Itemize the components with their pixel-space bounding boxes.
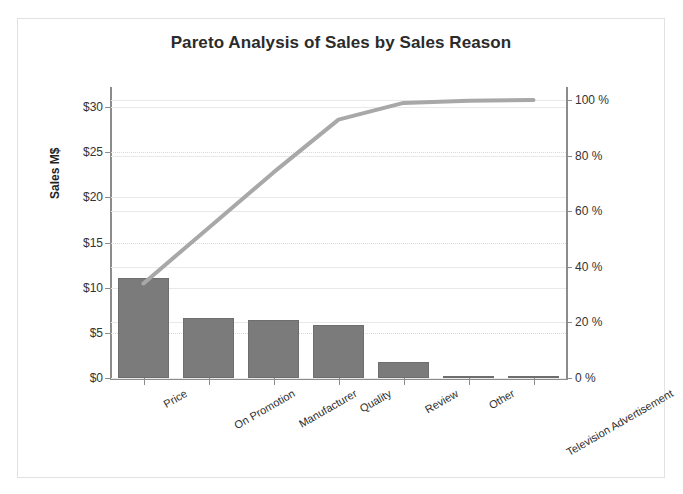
- chart-frame: Pareto Analysis of Sales by Sales Reason…: [17, 18, 665, 478]
- y-axis-right-label: 0 %: [575, 371, 596, 385]
- y-axis-left-tick: [105, 197, 111, 198]
- chart-title: Pareto Analysis of Sales by Sales Reason: [18, 33, 664, 53]
- y-axis-left-label: $30: [83, 100, 103, 114]
- y-axis-right-tick: [566, 267, 572, 268]
- y-axis-right-label: 80 %: [575, 149, 602, 163]
- x-axis-tick: [534, 378, 535, 385]
- x-axis-label: Review: [422, 387, 459, 415]
- y-axis-left-label: $0: [90, 371, 103, 385]
- gridline-secondary: [111, 267, 566, 268]
- x-axis-label: Manufacturer: [296, 387, 358, 430]
- x-axis-label: Quality: [357, 387, 393, 415]
- x-axis-label: Other: [486, 387, 516, 411]
- x-axis-label: On Promotion: [232, 387, 297, 431]
- gridline: [111, 197, 566, 198]
- y-axis-right-label: 60 %: [575, 204, 602, 218]
- y-axis-right-line: [566, 87, 568, 380]
- gridline-secondary: [111, 100, 566, 101]
- x-axis-tick: [469, 378, 470, 385]
- y-axis-right-tick: [566, 322, 572, 323]
- x-axis-tick: [404, 378, 405, 385]
- gridline-secondary: [111, 156, 566, 157]
- y-axis-title: Sales M$: [48, 148, 62, 199]
- y-axis-right-label: 40 %: [575, 260, 602, 274]
- y-axis-left-tick: [105, 378, 111, 379]
- y-axis-left-label: $10: [83, 281, 103, 295]
- bar[interactable]: [313, 325, 364, 378]
- y-axis-left-tick: [105, 107, 111, 108]
- y-axis-right-tick: [566, 378, 572, 379]
- y-axis-right-label: 100 %: [575, 93, 609, 107]
- y-axis-left-label: $20: [83, 190, 103, 204]
- gridline: [111, 152, 566, 153]
- y-axis-left-tick: [105, 333, 111, 334]
- y-axis-right-label: 20 %: [575, 315, 602, 329]
- bar[interactable]: [183, 318, 234, 378]
- gridline: [111, 288, 566, 289]
- bar[interactable]: [378, 362, 429, 378]
- x-axis-label: Television Advertisement: [564, 387, 675, 458]
- y-axis-left-tick: [105, 243, 111, 244]
- y-axis-right-tick: [566, 100, 572, 101]
- y-axis-left-tick: [105, 288, 111, 289]
- gridline: [111, 243, 566, 244]
- x-axis-tick: [274, 378, 275, 385]
- bar[interactable]: [248, 320, 299, 378]
- y-axis-right-tick: [566, 156, 572, 157]
- gridline: [111, 107, 566, 108]
- x-axis-tick: [144, 378, 145, 385]
- y-axis-left-label: $25: [83, 145, 103, 159]
- x-axis-tick: [339, 378, 340, 385]
- y-axis-left-tick: [105, 152, 111, 153]
- plot-area: $0$5$10$15$20$25$30 0 %20 %40 %60 %80 %1…: [111, 89, 566, 378]
- x-axis-label: Price: [161, 387, 189, 410]
- y-axis-right-tick: [566, 211, 572, 212]
- bar[interactable]: [118, 278, 169, 378]
- y-axis-left-label: $15: [83, 236, 103, 250]
- x-axis-tick: [209, 378, 210, 385]
- gridline-secondary: [111, 211, 566, 212]
- gridline-secondary: [111, 322, 566, 323]
- y-axis-left-label: $5: [90, 326, 103, 340]
